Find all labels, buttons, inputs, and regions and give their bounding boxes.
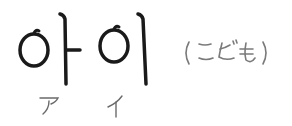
reading-a — [40, 98, 58, 114]
reading-i — [108, 96, 122, 117]
korean-syllable-a — [20, 14, 80, 84]
meaning-parenthetical — [186, 40, 266, 64]
word-illustration — [0, 0, 292, 126]
korean-syllable-i — [100, 14, 146, 84]
